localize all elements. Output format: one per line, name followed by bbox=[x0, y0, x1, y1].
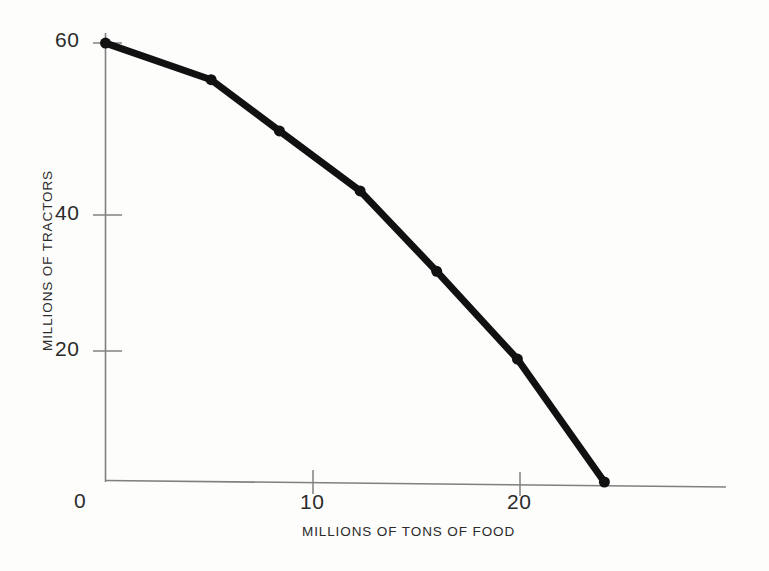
y-tick-label-0: 0 bbox=[74, 489, 86, 513]
y-axis-title: MILLIONS OF TRACTORS bbox=[40, 161, 55, 361]
chart-plot-area bbox=[0, 0, 769, 571]
y-axis-ticks bbox=[93, 43, 122, 351]
data-point bbox=[206, 74, 217, 85]
x-axis-line bbox=[106, 481, 727, 488]
data-point bbox=[274, 125, 285, 136]
data-point bbox=[100, 38, 111, 49]
y-tick-label-40: 40 bbox=[55, 201, 79, 225]
y-tick-label-60: 60 bbox=[55, 28, 79, 52]
y-tick-label-20: 20 bbox=[55, 337, 79, 361]
data-point bbox=[599, 477, 610, 488]
series-markers-ppf bbox=[100, 38, 610, 488]
series-line-ppf bbox=[106, 43, 605, 482]
x-axis-title: MILLIONS OF TONS OF FOOD bbox=[302, 524, 515, 539]
data-point bbox=[431, 266, 442, 277]
data-point bbox=[355, 185, 366, 196]
x-tick-label-10: 10 bbox=[300, 490, 324, 514]
chart-figure: 60 40 20 0 10 20 MILLIONS OF TONS OF FOO… bbox=[0, 0, 769, 571]
data-point bbox=[512, 354, 523, 365]
x-tick-label-20: 20 bbox=[507, 490, 531, 514]
